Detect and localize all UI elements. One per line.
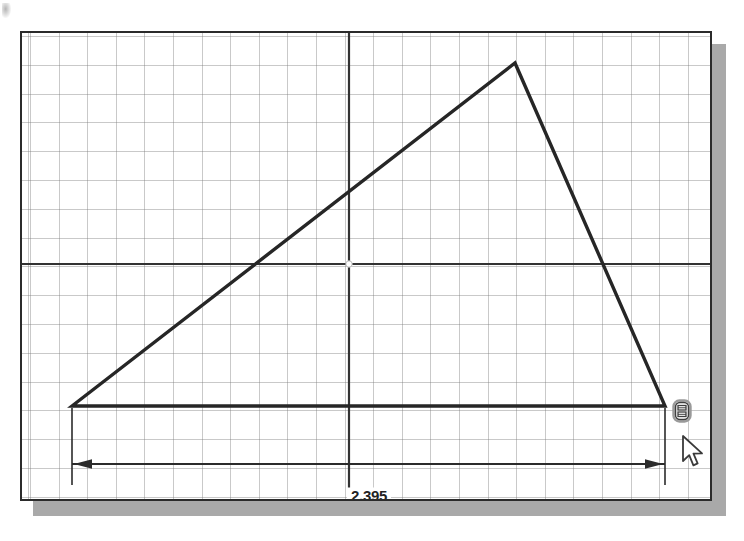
dimension-annotation bbox=[72, 408, 665, 485]
triangle-profile-geometry bbox=[72, 63, 665, 406]
canvas-inner: 2.395 bbox=[22, 33, 710, 499]
axis-lines bbox=[22, 33, 710, 499]
scan-artifact bbox=[2, 3, 11, 18]
sketch-canvas[interactable]: 2.395 bbox=[20, 31, 712, 501]
dimension-value-label[interactable]: 2.395 bbox=[347, 488, 391, 500]
origin-marker-icon bbox=[346, 261, 352, 267]
triangle-profile-path bbox=[72, 63, 665, 406]
app-root: 2.395 bbox=[0, 0, 744, 541]
sketch-svg-layer bbox=[22, 33, 710, 499]
dimension-arrowhead-right bbox=[645, 459, 663, 469]
dimension-arrowhead-left bbox=[74, 459, 92, 469]
